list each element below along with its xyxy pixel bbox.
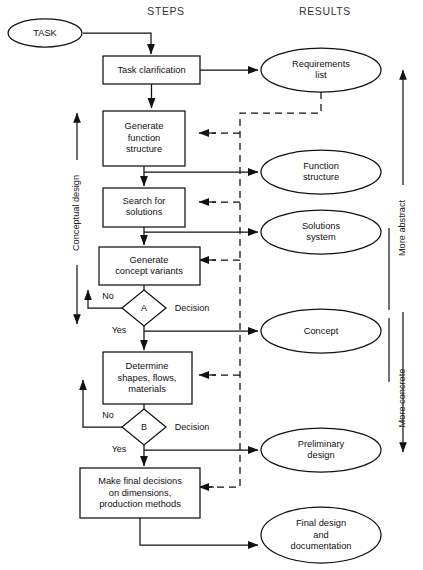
design-process-flowchart: STEPS RESULTS TASK Task clarification Re… xyxy=(0,0,423,570)
decision-b-label: Decision xyxy=(175,422,210,432)
result-solutions-system-label: Solutionssystem xyxy=(302,221,341,243)
annotation-more-abstract: More abstract xyxy=(397,199,407,256)
decision-b-marker: B xyxy=(141,422,147,432)
decision-a-label: Decision xyxy=(175,303,210,313)
step-generate-function-structure-label: Generatefunctionstructure xyxy=(125,121,164,154)
column-header-results: RESULTS xyxy=(299,5,351,17)
decision-b-no-label: No xyxy=(102,410,114,420)
decision-a-marker: A xyxy=(141,303,147,313)
decision-a-no-label: No xyxy=(102,291,114,301)
column-header-steps: STEPS xyxy=(147,5,184,17)
step-task-clarification-label: Task clarification xyxy=(117,65,185,75)
step-search-for-solutions-label: Search forsolutions xyxy=(123,196,166,218)
decision-b-yes-label: Yes xyxy=(112,444,127,454)
start-node-task-label: TASK xyxy=(33,28,57,38)
annotation-more-concrete: More concrete xyxy=(397,369,407,428)
result-function-structure-label: Functionstructure xyxy=(303,161,339,183)
decision-a-yes-label: Yes xyxy=(112,325,127,335)
step-make-final-decisions-label: Make final decisionson dimensions,produc… xyxy=(98,476,182,509)
result-concept-label: Concept xyxy=(304,326,339,336)
annotation-conceptual-design: Conceptual design xyxy=(71,175,81,251)
